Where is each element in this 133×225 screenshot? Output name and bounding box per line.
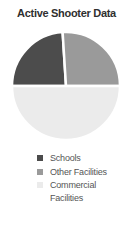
pie-slice-commercial-facilities <box>12 86 120 140</box>
legend-label-other-facilities: Other Facilities <box>50 166 107 179</box>
legend-item-commercial-facilities: Commercial Facilities <box>37 179 118 204</box>
legend-item-other-facilities: Other Facilities <box>37 166 118 179</box>
pie-chart <box>0 0 133 148</box>
legend-swatch-schools <box>37 155 43 161</box>
legend-swatch-other-facilities <box>37 169 43 175</box>
legend-label-commercial-facilities: Commercial Facilities <box>50 179 118 204</box>
pie-slice-other-facilities <box>63 32 120 86</box>
chart-card: Active Shooter Data Schools Other Facili… <box>0 0 133 225</box>
legend-item-schools: Schools <box>37 152 118 165</box>
pie-slice-schools <box>12 32 66 86</box>
legend: Schools Other Facilities Commercial Faci… <box>37 152 118 205</box>
legend-swatch-commercial-facilities <box>37 182 43 188</box>
legend-label-schools: Schools <box>50 152 81 165</box>
